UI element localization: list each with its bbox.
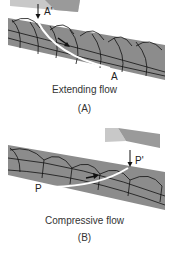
panel-b-slab xyxy=(105,128,160,148)
panel-a-band xyxy=(8,18,165,80)
caption-compressive-flow: Compressive flow xyxy=(0,215,169,226)
point-a-prime-label: A' xyxy=(44,6,53,17)
point-p-label: P xyxy=(35,183,42,194)
panel-a-letter: (A) xyxy=(0,103,169,114)
caption-extending-flow: Extending flow xyxy=(0,84,169,95)
point-p-prime-label: P' xyxy=(135,155,144,166)
panel-b-letter: (B) xyxy=(0,232,169,243)
point-a-label: A xyxy=(111,71,118,82)
